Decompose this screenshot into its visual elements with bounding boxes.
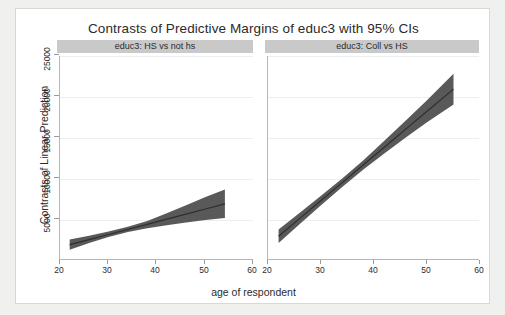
y-tick-label-10000: 10000 <box>42 165 52 199</box>
ci-band-left <box>60 56 253 260</box>
panel-header-right: educ3: Coll vs HS <box>265 40 479 53</box>
x-tick-label-right-60: 60 <box>469 265 489 275</box>
x-axis-title: age of respondent <box>16 286 491 298</box>
x-tick-label-left-50: 50 <box>194 265 214 275</box>
figure-canvas: Contrasts of Predictive Margins of educ3… <box>15 8 490 304</box>
x-tick-mark-left-30 <box>107 260 108 264</box>
x-tick-mark-right-60 <box>479 260 480 264</box>
x-tick-mark-right-20 <box>267 260 268 264</box>
ci-band-right <box>268 56 479 260</box>
x-tick-label-left-40: 40 <box>145 265 165 275</box>
x-tick-label-left-30: 30 <box>97 265 117 275</box>
y-tick-mark-25000 <box>54 54 59 55</box>
x-tick-mark-right-30 <box>320 260 321 264</box>
y-tick-label-20000: 20000 <box>42 83 52 117</box>
plot-area-left <box>59 56 253 260</box>
panel-header-left: educ3: HS vs not hs <box>57 40 253 53</box>
x-tick-label-left-20: 20 <box>49 265 69 275</box>
plot-area-right <box>267 56 479 260</box>
x-tick-mark-left-60 <box>252 260 253 264</box>
x-tick-label-right-40: 40 <box>363 265 383 275</box>
y-tick-label-25000: 25000 <box>42 42 52 76</box>
x-tick-label-right-50: 50 <box>416 265 436 275</box>
y-tick-label-5000: 5000 <box>42 206 52 240</box>
x-tick-mark-right-50 <box>426 260 427 264</box>
x-tick-label-right-30: 30 <box>310 265 330 275</box>
x-tick-mark-left-50 <box>204 260 205 264</box>
x-tick-mark-right-40 <box>373 260 374 264</box>
chart-title: Contrasts of Predictive Margins of educ3… <box>16 21 491 36</box>
x-tick-label-right-20: 20 <box>257 265 277 275</box>
x-tick-mark-left-40 <box>155 260 156 264</box>
y-tick-label-15000: 15000 <box>42 124 52 158</box>
x-tick-mark-left-20 <box>59 260 60 264</box>
